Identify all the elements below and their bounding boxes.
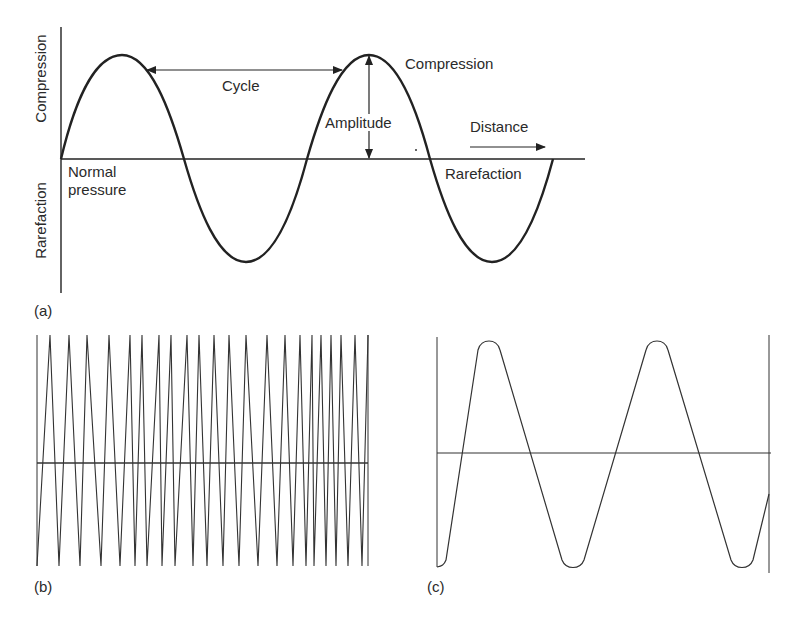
panel-b — [37, 335, 368, 566]
distance-label: Distance — [470, 118, 528, 135]
normal-pressure-label-line1: Normal — [68, 163, 116, 180]
panel-b-triangle-wave — [37, 335, 368, 566]
amplitude-label: Amplitude — [324, 114, 393, 131]
y-axis-label-compression: Compression — [32, 29, 49, 129]
rarefaction-label: Rarefaction — [445, 165, 522, 182]
dot-mark — [415, 149, 417, 151]
compression-label: Compression — [405, 55, 493, 72]
normal-pressure-label-line2: pressure — [68, 181, 126, 198]
cycle-label: Cycle — [222, 77, 260, 94]
y-axis-label-rarefaction: Rarefaction — [32, 171, 49, 271]
panel-a — [61, 27, 585, 293]
panel-c-tag: (c) — [427, 578, 445, 595]
sound-wave-figure — [0, 0, 811, 624]
panel-c-rounded-triangle-wave — [437, 341, 769, 568]
panel-b-tag: (b) — [34, 578, 52, 595]
panel-c — [437, 335, 771, 573]
panel-a-tag: (a) — [34, 302, 52, 319]
